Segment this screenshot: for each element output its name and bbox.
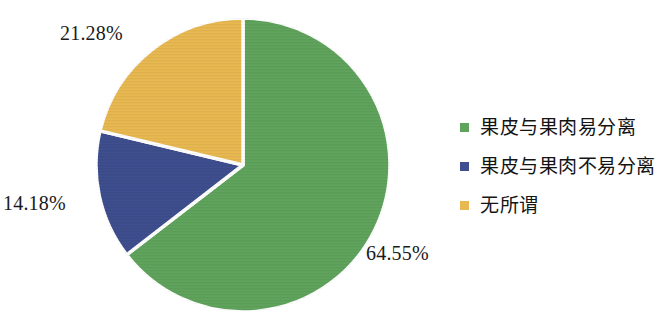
pie-label-gold-percent: 21.28% [60,22,123,45]
legend-swatch-green-icon [460,123,469,132]
legend-item-gold[interactable]: 无所谓 [460,186,668,225]
pie-label-green-percent: 64.55% [366,242,429,265]
legend-item-blue[interactable]: 果皮与果肉不易分离 [460,147,668,186]
legend-swatch-blue-icon [460,162,469,171]
pie-chart: 21.28% 14.18% 64.55% 果皮与果肉易分离 果皮与果肉不易分离 … [0,0,668,317]
legend-label-green: 果皮与果肉易分离 [480,118,636,137]
legend-label-gold: 无所谓 [480,196,539,215]
legend-label-blue: 果皮与果肉不易分离 [480,157,656,176]
pie-label-blue-percent: 14.18% [3,192,66,215]
pie-texture-overlay [96,18,390,312]
legend-swatch-gold-icon [460,201,469,210]
chart-legend: 果皮与果肉易分离 果皮与果肉不易分离 无所谓 [460,108,668,225]
legend-item-green[interactable]: 果皮与果肉易分离 [460,108,668,147]
